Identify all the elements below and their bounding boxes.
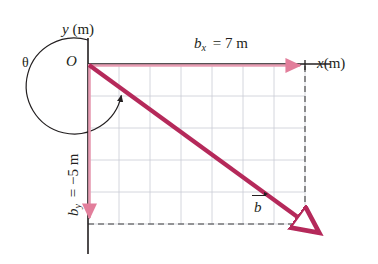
origin-label: O (66, 54, 77, 69)
theta-angle-label: θ (22, 56, 29, 70)
y-axis-label: y (m) (62, 22, 94, 37)
diagram-canvas (0, 0, 378, 264)
vector-b-symbol: b (254, 199, 262, 215)
vector-b-arrow (89, 65, 301, 220)
vector-b-label: b (253, 200, 263, 215)
x-axis-label: x(m) (317, 56, 345, 71)
vector-diagram-figure: y (m) x(m) O θ bx = 7 m by = −5 m b (0, 0, 378, 264)
by-component-label: by = −5 m (66, 154, 83, 216)
bx-component-label: bx = 7 m (194, 36, 248, 53)
